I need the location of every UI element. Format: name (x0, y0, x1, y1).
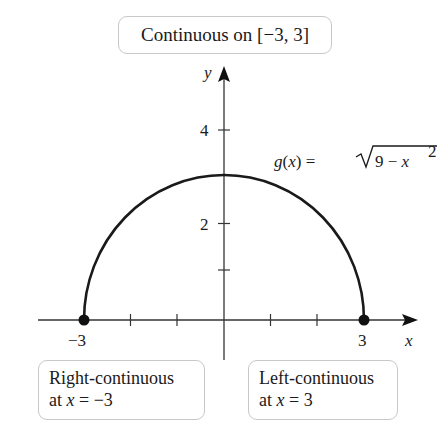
closed-endpoint-left (79, 315, 90, 326)
x-axis-label: x (404, 331, 413, 350)
closed-endpoint-right (359, 315, 370, 326)
annotation-left-line1: Left-continuous (259, 367, 387, 389)
y-tick-label-2: 2 (200, 215, 209, 234)
y-tick-label-4: 4 (200, 121, 209, 140)
annotation-left-continuous: Left-continuous at x = 3 (248, 360, 398, 420)
x-tick-label-neg3: −3 (68, 331, 86, 350)
annotation-right-continuous: Right-continuous at x = −3 (38, 360, 205, 420)
x-tick-label-3: 3 (358, 331, 367, 350)
title-text: Continuous on [−3, 3] (141, 24, 309, 45)
function-exponent: 2 (428, 142, 437, 161)
function-label: g(x) = (274, 152, 315, 171)
annotation-right-line2: at x = −3 (49, 389, 194, 411)
function-radicand: 9 − x (375, 152, 410, 171)
annotation-right-line1: Right-continuous (49, 367, 194, 389)
title-box: Continuous on [−3, 3] (118, 16, 332, 54)
annotation-left-line2: at x = 3 (259, 389, 387, 411)
y-axis-label: y (202, 63, 212, 82)
